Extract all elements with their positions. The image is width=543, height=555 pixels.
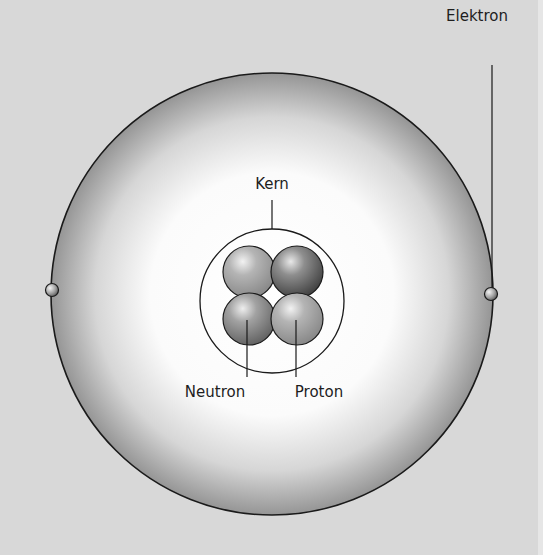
proton xyxy=(271,293,323,345)
nucleon-top-right xyxy=(271,246,323,298)
neutron xyxy=(223,293,275,345)
neutron-label: Neutron xyxy=(185,385,245,400)
electron-shell xyxy=(51,73,493,515)
atom-illustration xyxy=(0,0,543,555)
nucleus-label: Kern xyxy=(255,177,289,192)
nucleon-top-left xyxy=(223,246,275,298)
electron-label: Elektron xyxy=(446,9,508,24)
proton-label: Proton xyxy=(295,385,343,400)
atom-diagram: Elektron Kern Neutron Proton xyxy=(0,0,543,555)
electron-right xyxy=(485,288,498,301)
electron-left xyxy=(46,284,59,297)
